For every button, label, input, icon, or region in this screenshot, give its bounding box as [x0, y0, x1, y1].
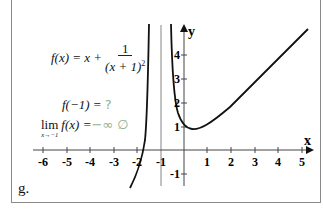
svg-text:-3: -3 — [109, 155, 119, 169]
limit-subscript: x→−1 — [41, 131, 58, 138]
evaluation-expression: f(−1) = — [62, 97, 105, 112]
exponent: 2 — [141, 59, 145, 68]
handwritten-limit-answer: −∞ ∅ — [91, 118, 128, 132]
fraction-denominator: (x + 1)2 — [105, 56, 145, 74]
svg-text:5: 5 — [299, 155, 305, 169]
evaluation-question: f(−1) = ? — [62, 97, 112, 113]
y-axis-arrow-icon — [180, 24, 188, 32]
svg-text:-2: -2 — [132, 155, 142, 169]
svg-text:4: 4 — [174, 48, 180, 62]
svg-text:1: 1 — [174, 120, 180, 134]
function-lhs: f(x) = x + — [51, 50, 102, 66]
fraction-numerator: 1 — [118, 42, 133, 56]
curve-right-branch — [171, 24, 308, 129]
svg-text:2: 2 — [174, 96, 180, 110]
svg-text:4: 4 — [275, 155, 281, 169]
svg-text:3: 3 — [252, 155, 258, 169]
x-axis-label: x — [304, 133, 311, 148]
fraction: 1 (x + 1)2 — [105, 42, 145, 74]
limit-expression: f(x) = — [61, 118, 91, 132]
svg-text:2: 2 — [228, 155, 234, 169]
function-definition: f(x) = x + 1 (x + 1)2 — [51, 42, 145, 74]
svg-text:3: 3 — [174, 72, 180, 86]
handwritten-answer: ? — [105, 97, 112, 112]
svg-text:-4: -4 — [85, 155, 95, 169]
function-graph: -6-5-4 -3-2-1 123 45 43 21-1 y x — [0, 0, 323, 213]
svg-text:-1: -1 — [170, 167, 180, 181]
svg-text:1: 1 — [204, 155, 210, 169]
svg-text:-6: -6 — [38, 155, 48, 169]
svg-text:-1: -1 — [156, 155, 166, 169]
limit-operator: lim x→−1 — [41, 118, 58, 138]
y-axis-label: y — [188, 24, 195, 39]
limit-question: lim x→−1 f(x) = −∞ ∅ — [41, 118, 129, 138]
svg-text:-5: -5 — [62, 155, 72, 169]
problem-label: g. — [18, 180, 29, 197]
